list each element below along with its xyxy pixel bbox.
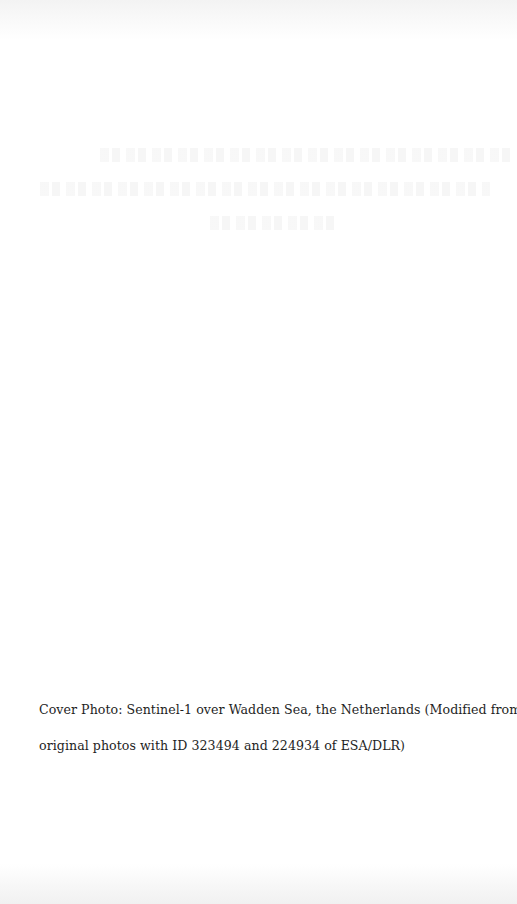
caption-line-2: original photos with ID 323494 and 22493… (39, 728, 509, 764)
faint-title-block (0, 148, 517, 230)
cover-photo-caption: Cover Photo: Sentinel-1 over Wadden Sea,… (39, 692, 509, 764)
faint-title-line-1 (100, 148, 510, 162)
faint-title-line-3 (210, 216, 340, 230)
scan-edge-top (0, 0, 517, 40)
caption-line-1: Cover Photo: Sentinel-1 over Wadden Sea,… (39, 692, 509, 728)
scan-edge-bottom (0, 864, 517, 904)
faint-title-line-2 (40, 182, 490, 196)
